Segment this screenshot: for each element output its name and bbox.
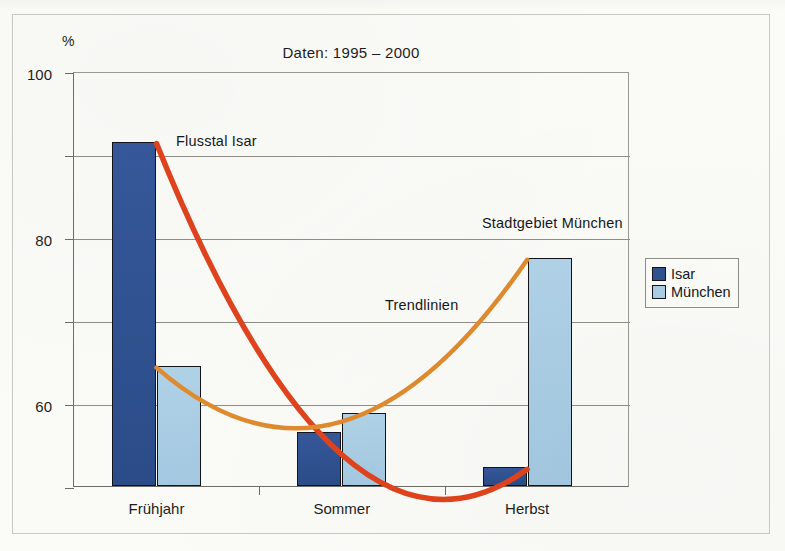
y-axis-tick: 100	[65, 73, 74, 74]
legend-item-isar: Isar	[652, 266, 731, 282]
x-axis-label-herbst: Herbst	[505, 500, 549, 517]
y-axis-tick-label: 80	[35, 232, 52, 249]
gridline	[74, 156, 630, 157]
y-axis-tick: 40	[65, 322, 74, 323]
bar-isar-sommer	[297, 432, 341, 486]
figure-page: % Daten: 1995 – 2000 020406080100 Frühja…	[0, 0, 785, 551]
legend-label-muenchen: München	[671, 284, 731, 300]
chart-legend: Isar München	[645, 258, 739, 308]
annotation-trendlinien: Trendlinien	[385, 297, 458, 313]
y-axis-tick: 20	[65, 405, 74, 406]
legend-item-muenchen: München	[652, 284, 731, 300]
bar-munchen-sommer	[342, 413, 386, 486]
x-axis-tick	[259, 486, 260, 495]
trendline-muenchen-path	[157, 260, 528, 429]
x-axis-label-sommer: Sommer	[313, 500, 370, 517]
x-axis-label-fruhjahr: Frühjahr	[129, 500, 185, 517]
bar-munchen-fruhjahr	[157, 366, 201, 486]
y-axis-tick-label: 60	[35, 398, 52, 415]
y-axis-tick: 0	[65, 488, 74, 489]
y-axis-tick: 60	[65, 239, 74, 240]
legend-swatch-muenchen	[652, 285, 666, 299]
y-axis-tick-label: 100	[27, 66, 52, 83]
x-axis-tick	[445, 486, 446, 495]
annotation-flusstal-isar: Flusstal Isar	[176, 133, 257, 149]
y-axis-tick: 80	[65, 156, 74, 157]
bar-isar-herbst	[483, 467, 527, 486]
annotation-stadtgebiet-muenchen: Stadtgebiet München	[482, 215, 623, 231]
bar-isar-fruhjahr	[112, 142, 156, 486]
bar-chart: % Daten: 1995 – 2000 020406080100 Frühja…	[0, 0, 785, 551]
bar-munchen-herbst	[528, 258, 572, 486]
chart-title: Daten: 1995 – 2000	[73, 44, 629, 61]
gridline	[74, 239, 630, 240]
plot-area: 020406080100 FrühjahrSommerHerbst	[73, 72, 629, 487]
legend-swatch-isar	[652, 267, 666, 281]
legend-label-isar: Isar	[671, 266, 695, 282]
